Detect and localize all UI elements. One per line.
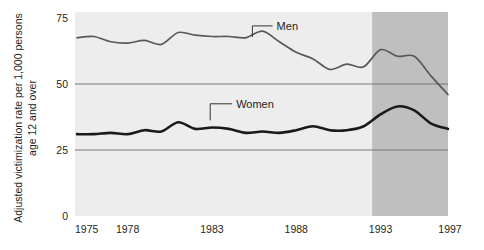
y-tick-label-25: 25 [56,144,68,156]
y-axis-title-line-1: Adjusted victimization rate per 1,000 pe… [12,13,24,223]
y-tick-label-0: 0 [62,210,68,222]
y-tick-label-75: 75 [56,12,68,24]
victimization-rate-line-chart: 0255075 197519781983198819931997 Adjuste… [0,0,484,250]
x-tick-label-1983: 1983 [200,223,224,235]
x-tick-label-1975: 1975 [75,223,99,235]
series-label-men: Men [277,20,298,32]
series-label-women: Women [236,98,274,110]
x-tick-label-1988: 1988 [285,223,309,235]
y-axis-title: Adjusted victimization rate per 1,000 pe… [12,13,38,223]
x-axis-tick-labels: 197519781983198819931997 [75,223,462,235]
y-axis-tick-labels: 0255075 [56,12,68,222]
y-tick-label-50: 50 [56,78,68,90]
chart-container: 0255075 197519781983198819931997 Adjuste… [0,0,484,250]
x-tick-label-1993: 1993 [369,223,393,235]
x-tick-label-1978: 1978 [116,223,140,235]
y-axis-title-line-2: age 12 and over [26,80,38,156]
x-tick-label-1997: 1997 [438,223,462,235]
